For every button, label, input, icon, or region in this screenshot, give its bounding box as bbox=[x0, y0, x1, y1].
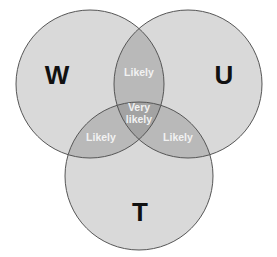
set-t-label: T bbox=[132, 197, 148, 227]
set-w-label: W bbox=[45, 60, 70, 90]
overlap-w-u-t-label-line1: Very bbox=[128, 101, 150, 113]
overlap-w-u-label: Likely bbox=[124, 66, 154, 78]
overlap-w-u-t-label-line2: likely bbox=[126, 113, 152, 125]
overlap-w-t-label: Likely bbox=[86, 131, 116, 143]
set-u-label: U bbox=[215, 60, 234, 90]
venn-diagram: W U T Likely Likely Likely Very likely bbox=[0, 0, 277, 257]
overlap-u-t-label: Likely bbox=[163, 131, 193, 143]
